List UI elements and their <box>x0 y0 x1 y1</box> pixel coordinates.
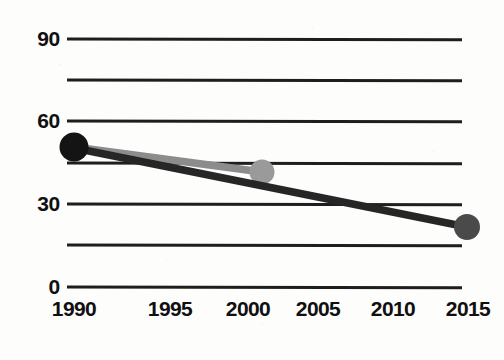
gridline-30 <box>67 204 462 205</box>
y-tick-label-0: 0 <box>18 275 60 299</box>
gridline-75 <box>67 80 462 81</box>
x-tick-label-2000: 2000 <box>226 297 270 321</box>
gridline-15 <box>67 245 462 246</box>
series-dark-line <box>74 148 467 227</box>
y-tick-label-90: 90 <box>18 27 60 51</box>
x-tick-label-2015: 2015 <box>446 297 490 321</box>
x-tick-label-2005: 2005 <box>296 297 340 321</box>
chart-container: 90 60 30 0 1990 1995 2000 2005 2010 2015 <box>0 0 504 360</box>
series-dark <box>60 133 481 241</box>
y-tick-label-30: 30 <box>18 192 60 216</box>
y-tick-label-60: 60 <box>18 109 60 133</box>
gridline-60 <box>67 121 462 122</box>
gridline-0 <box>67 287 462 288</box>
x-tick-label-1990: 1990 <box>52 297 96 321</box>
gridline-90 <box>67 39 462 40</box>
series-dark-marker-2015 <box>454 214 480 240</box>
x-tick-label-1995: 1995 <box>148 297 192 321</box>
x-tick-label-2010: 2010 <box>371 297 415 321</box>
series-dark-marker-1990 <box>60 133 89 162</box>
